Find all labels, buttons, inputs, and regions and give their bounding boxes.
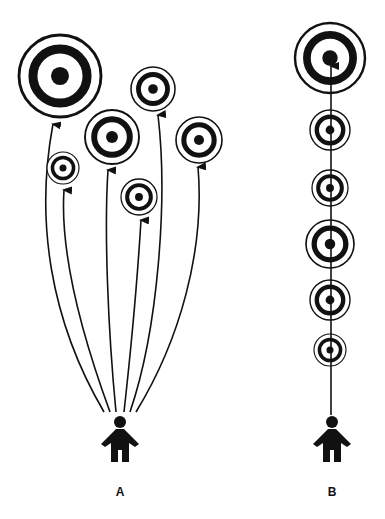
target-icon — [310, 110, 350, 150]
person-b-icon — [313, 416, 351, 462]
diagram-canvas — [0, 0, 385, 519]
target-icon — [131, 67, 175, 111]
panel-b-label: B — [322, 485, 342, 499]
target-icon — [176, 117, 222, 163]
person-a-icon — [101, 416, 139, 462]
target-icon — [306, 220, 354, 268]
target-icon — [295, 23, 365, 93]
target-icon — [19, 35, 101, 117]
target-icon — [312, 170, 348, 206]
panel-a-label: A — [110, 485, 130, 499]
arrow-to-middle-target — [106, 170, 116, 412]
arrow-to-top-right-target — [130, 115, 162, 412]
panel-a-targets — [19, 35, 222, 215]
target-icon — [314, 334, 346, 366]
panel-b-targets — [295, 23, 365, 366]
target-icon — [47, 152, 79, 184]
target-icon — [85, 110, 139, 164]
target-icon — [121, 179, 157, 215]
target-icon — [310, 280, 350, 320]
